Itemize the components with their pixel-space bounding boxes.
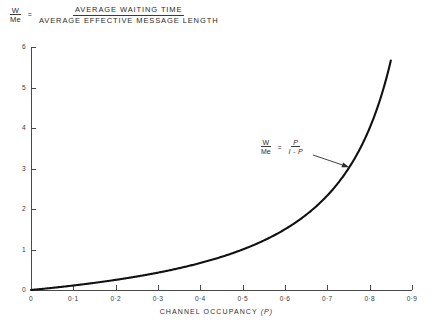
x-axis-tick-labels: 00·10·20·30·40·50·60·70·80·9 <box>29 295 417 302</box>
x-axis-caption-symbol: (P) <box>261 308 274 315</box>
annotation-formula-numerator: P <box>291 139 300 147</box>
x-tick-label: 0·4 <box>195 295 205 302</box>
x-tick-label: 0·3 <box>153 295 163 302</box>
x-tick-label: 0·5 <box>237 295 247 302</box>
y-tick-label: 4 <box>22 124 26 131</box>
curve-formula-annotation: W Me = P I - P <box>259 139 305 156</box>
annotation-arrowhead-icon <box>341 162 349 167</box>
x-tick-label: 0·6 <box>280 295 290 302</box>
y-tick-label: 5 <box>22 84 26 91</box>
chart-plot-area: 00·10·20·30·40·50·60·70·80·9 0123456 <box>0 0 433 328</box>
y-tick-label: 1 <box>22 246 26 253</box>
x-tick-label: 0·7 <box>322 295 332 302</box>
waiting-time-curve <box>31 61 391 291</box>
x-tick-label: 0·2 <box>110 295 120 302</box>
y-tick-label: 0 <box>22 286 26 293</box>
y-tick-label: 6 <box>22 43 26 50</box>
annotation-ratio-denominator: Me <box>259 147 273 155</box>
y-tick-label: 3 <box>22 165 26 172</box>
y-axis-tick-labels: 0123456 <box>22 43 26 293</box>
x-axis-caption-text: CHANNEL OCCUPANCY <box>160 308 258 315</box>
annotation-equals-sign: = <box>278 144 282 151</box>
annotation-ratio: W Me <box>259 139 273 156</box>
x-tick-label: 0·1 <box>68 295 78 302</box>
annotation-formula-denominator: I - P <box>287 147 305 155</box>
x-tick-label: 0 <box>29 295 33 302</box>
annotation-formula: P I - P <box>287 139 305 156</box>
x-tick-label: 0·9 <box>407 295 417 302</box>
annotation-ratio-numerator: W <box>261 139 272 147</box>
annotation-leader-line <box>313 155 342 165</box>
x-axis-ticks <box>32 285 413 290</box>
y-tick-label: 2 <box>22 205 26 212</box>
chart-svg: 00·10·20·30·40·50·60·70·80·9 0123456 <box>0 0 433 328</box>
x-tick-label: 0·8 <box>364 295 374 302</box>
x-axis-caption: CHANNEL OCCUPANCY (P) <box>0 308 433 315</box>
